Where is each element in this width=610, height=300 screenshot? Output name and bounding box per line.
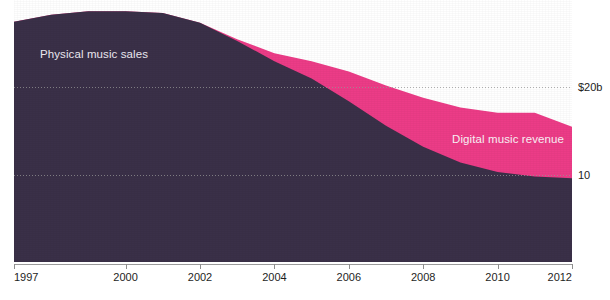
x-axis-tick-1997 bbox=[14, 264, 15, 269]
x-axis-tick-2002 bbox=[200, 264, 201, 269]
x-axis-tick-2004 bbox=[274, 264, 275, 269]
gridline-10b bbox=[14, 175, 572, 176]
stacked-area-chart: $20b 10 19972000200220042006200820102012… bbox=[0, 0, 610, 300]
x-axis-label-2010: 2010 bbox=[485, 271, 509, 283]
x-axis-label-2012: 2012 bbox=[548, 271, 572, 283]
x-axis-tick-2008 bbox=[423, 264, 424, 269]
x-axis-tick-2012 bbox=[572, 264, 573, 269]
x-axis-label-2002: 2002 bbox=[188, 271, 212, 283]
series-label-physical-music-sales: Physical music sales bbox=[40, 48, 148, 60]
area-series-svg bbox=[14, 0, 572, 262]
gridline-20b bbox=[14, 87, 572, 88]
x-axis-label-2006: 2006 bbox=[337, 271, 361, 283]
x-axis-tick-2000 bbox=[126, 264, 127, 269]
y-axis-label-20b: $20b bbox=[578, 82, 602, 93]
series-label-digital-music-revenue: Digital music revenue bbox=[452, 133, 564, 145]
y-axis-label-10: 10 bbox=[578, 170, 590, 181]
x-axis-label-2000: 2000 bbox=[113, 271, 137, 283]
x-axis-line bbox=[14, 264, 572, 265]
x-axis-tick-2006 bbox=[349, 264, 350, 269]
x-axis-tick-2010 bbox=[498, 264, 499, 269]
x-axis-label-1997: 1997 bbox=[14, 271, 38, 283]
plot-area bbox=[14, 0, 572, 262]
x-axis-label-2008: 2008 bbox=[411, 271, 435, 283]
x-axis-label-2004: 2004 bbox=[262, 271, 286, 283]
